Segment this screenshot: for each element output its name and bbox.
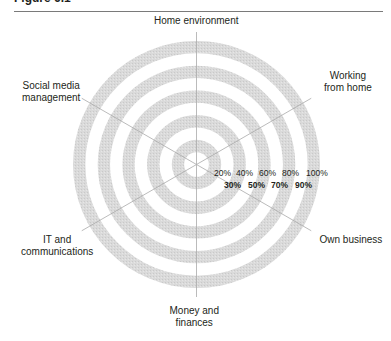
scale-label-20: 20% — [214, 168, 231, 178]
scale-label-70: 70% — [271, 180, 288, 190]
axis-label-line: communications — [21, 246, 93, 258]
axis-label-line: from home — [324, 82, 372, 94]
axis-label-working-from-home: Workingfrom home — [324, 70, 372, 94]
scale-label-100: 100% — [306, 168, 328, 178]
axis-label-line: Own business — [320, 234, 383, 246]
axis-label-line: finances — [170, 317, 219, 329]
scale-label-80: 80% — [282, 168, 299, 178]
scale-label-60: 60% — [259, 168, 276, 178]
axis-label-line: IT and — [21, 234, 93, 246]
axis-label-line: Working — [324, 70, 372, 82]
axis-label-own-business: Own business — [320, 234, 383, 246]
scale-label-40: 40% — [236, 168, 253, 178]
axis-label-line: Social media — [22, 80, 80, 92]
axis-label-social-media-management: Social mediamanagement — [22, 80, 80, 104]
axis-label-line: Money and — [170, 305, 219, 317]
axis-label-it-and-communications: IT andcommunications — [21, 234, 93, 258]
scale-label-50: 50% — [248, 180, 265, 190]
axis-label-line: management — [22, 92, 80, 104]
scale-label-30: 30% — [224, 180, 241, 190]
scale-label-90: 90% — [295, 180, 312, 190]
axis-label-home-environment: Home environment — [154, 15, 238, 27]
axis-label-line: Home environment — [154, 15, 238, 27]
axis-label-money-and-finances: Money andfinances — [170, 305, 219, 329]
radar-chart — [0, 0, 391, 341]
